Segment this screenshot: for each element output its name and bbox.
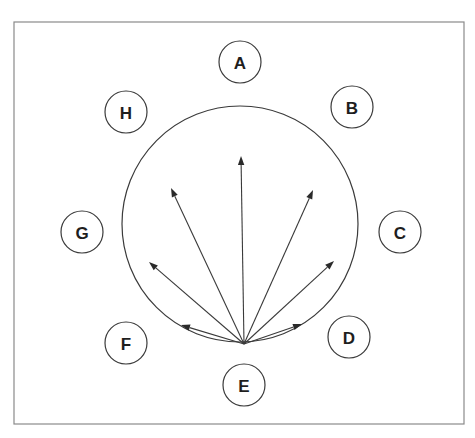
arrowhead-icon — [238, 156, 244, 165]
node-label: A — [234, 54, 246, 73]
arrow-lower-right — [244, 324, 302, 344]
node-h: H — [105, 91, 147, 133]
central-circle — [122, 106, 358, 342]
node-label: C — [394, 224, 406, 243]
node-f: F — [105, 322, 147, 364]
arrow-shaft — [241, 165, 244, 344]
node-g: G — [61, 211, 103, 253]
arrow-shaft — [175, 196, 244, 344]
arrow-left — [149, 262, 244, 344]
node-label: B — [346, 99, 358, 118]
node-d: D — [328, 316, 370, 358]
arrow-upper-left — [171, 188, 244, 344]
node-e: E — [223, 364, 265, 406]
arrow-group — [149, 156, 334, 344]
node-group: ABCDEFGH — [61, 41, 421, 406]
node-label: G — [75, 224, 88, 243]
arrowhead-icon — [171, 188, 178, 198]
node-label: H — [120, 104, 132, 123]
arrow-shaft — [190, 328, 244, 344]
node-label: E — [238, 377, 249, 396]
arrow-shaft — [156, 268, 244, 344]
arrow-upper-right — [244, 190, 313, 344]
arrow-up — [238, 156, 244, 344]
node-c: C — [379, 211, 421, 253]
arrow-shaft — [244, 327, 293, 344]
arrow-shaft — [244, 198, 309, 344]
node-b: B — [331, 86, 373, 128]
arrowhead-icon — [306, 190, 313, 200]
node-label: D — [343, 329, 355, 348]
vector-diagram: ABCDEFGH — [0, 0, 475, 438]
node-label: F — [121, 335, 131, 354]
arrow-lower-left — [181, 325, 244, 344]
node-a: A — [219, 41, 261, 83]
